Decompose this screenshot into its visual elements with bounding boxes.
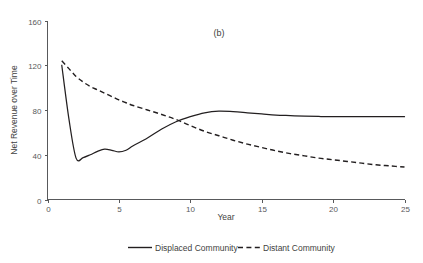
y-axis-tick-labels: 04080120160 — [28, 18, 42, 206]
series-line-displaced-community — [62, 65, 405, 161]
chart-canvas: (b) 04080120160 0510152025 Year Net Reve… — [0, 0, 423, 263]
y-tick-label: 160 — [28, 18, 42, 27]
y-tick-label: 40 — [33, 152, 42, 161]
y-tick-label: 80 — [33, 107, 42, 116]
x-tick-label: 0 — [46, 205, 51, 214]
x-tick-label: 25 — [401, 205, 410, 214]
x-tick-label: 20 — [329, 205, 338, 214]
x-tick-label: 10 — [186, 205, 195, 214]
y-tick-label: 0 — [37, 197, 42, 206]
x-tick-label: 5 — [117, 205, 122, 214]
chart-legend: Displaced Community Distant Community — [128, 243, 336, 253]
figure-panel-b: (b) 04080120160 0510152025 Year Net Reve… — [0, 0, 423, 263]
x-tick-label: 15 — [258, 205, 267, 214]
panel-label: (b) — [214, 28, 225, 38]
legend-label-distant-community: Distant Community — [263, 243, 336, 253]
x-axis-title: Year — [217, 212, 234, 222]
legend-label-displaced-community: Displaced Community — [155, 243, 238, 253]
y-tick-label: 120 — [28, 62, 42, 71]
y-axis-title: Net Revenue over Time — [9, 65, 19, 155]
